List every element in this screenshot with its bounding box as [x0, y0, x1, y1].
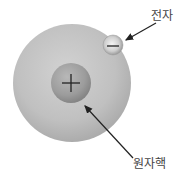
electron-label: 전자	[151, 9, 173, 23]
electron	[103, 35, 123, 55]
atom-diagram: 전자 원자핵	[0, 0, 188, 186]
nucleus-label: 원자핵	[133, 157, 166, 171]
electron-arrow	[126, 23, 156, 40]
